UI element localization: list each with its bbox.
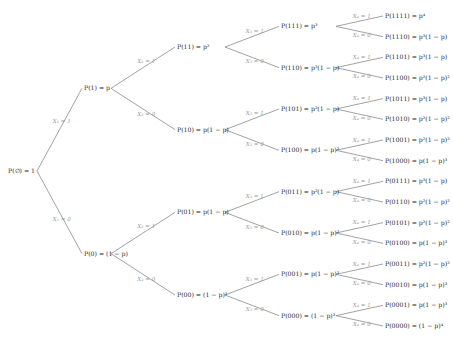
edge-label-x1-1: X₁ = 1 [53,119,71,125]
probability-tree-edges [0,0,453,341]
tree-node-level4: P(1110) = p³(1 − p) [385,34,447,40]
tree-node-level4: P(1011) = p³(1 − p) [385,96,447,102]
tree-node-level4: P(1101) = p³(1 − p) [385,54,447,60]
edge-label-x4-1: X₄ = 1 [353,262,371,268]
edge-label-x3-0: X₃ = 0 [246,308,264,314]
edge-label-x4-1: X₄ = 1 [353,14,371,20]
tree-node-level1: P(1) = p [84,85,110,91]
tree-node-level4: P(0001) = p(1 − p)³ [385,302,447,308]
tree-node-level3: P(010) = p(1 − p)² [281,230,339,236]
tree-node-level4: P(0111) = p³(1 − p) [385,178,447,184]
edge-label-x4-0: X₄ = 0 [353,157,371,163]
tree-edge [111,47,175,88]
edge-label-x4-1: X₄ = 1 [353,303,371,309]
edge-label-x4-0: X₄ = 0 [353,75,371,81]
tree-node-level2: P(00) = (1 − p)² [177,292,227,298]
root-node: P(∅) = 1 [8,168,35,174]
edge-label-x2-0: X₂ = 0 [137,112,155,118]
edge-label-x3-0: X₃ = 0 [246,225,264,231]
edge-label-x3-1: X₃ = 1 [246,112,264,118]
edge-label-x4-0: X₄ = 0 [353,281,371,287]
edge-label-x2-0: X₂ = 0 [137,278,155,284]
edge-label-x4-0: X₄ = 0 [353,240,371,246]
edge-label-x4-0: X₄ = 0 [353,33,371,39]
tree-node-level4: P(1010) = p²(1 − p)² [385,116,450,122]
tree-node-level4: P(1001) = p²(1 − p)² [385,137,450,143]
edge-label-x4-0: X₄ = 0 [353,323,371,329]
edge-label-x3-0: X₃ = 0 [246,142,264,148]
edge-label-x4-1: X₄ = 1 [353,179,371,185]
tree-node-level4: P(0100) = p(1 − p)³ [385,240,447,246]
tree-node-level2: P(11) = p² [177,44,209,50]
tree-node-level4: P(0101) = p²(1 − p)² [385,220,450,226]
tree-node-level4: P(0110) = p²(1 − p)² [385,199,450,205]
edge-label-x4-1: X₄ = 1 [353,221,371,227]
edge-label-x2-1: X₂ = 1 [137,59,155,65]
edge-label-x2-1: X₂ = 1 [137,224,155,230]
tree-node-level4: P(0000) = (1 − p)⁴ [385,323,443,329]
tree-node-level3: P(001) = p(1 − p)² [281,271,339,277]
tree-edge [111,88,175,129]
tree-node-level3: P(011) = p²(1 − p) [281,189,339,195]
tree-edge [111,212,175,253]
tree-edge [37,171,82,254]
edge-label-x3-1: X₃ = 1 [246,277,264,283]
edge-label-x4-1: X₄ = 1 [353,55,371,61]
edge-label-x3-1: X₃ = 1 [246,29,264,35]
tree-node-level4: P(1000) = p(1 − p)³ [385,158,447,164]
tree-node-level1: P(0) = (1 − p) [84,251,128,257]
tree-node-level3: P(110) = p²(1 − p) [281,65,339,71]
edge-label-x4-1: X₄ = 1 [353,97,371,103]
edge-label-x3-1: X₃ = 1 [246,194,264,200]
tree-node-level2: P(10) = p(1 − p) [177,127,229,133]
edge-label-x3-0: X₃ = 0 [246,60,264,66]
tree-node-level4: P(0011) = p²(1 − p)² [385,261,450,267]
edge-label-x1-0: X₁ = 0 [53,218,71,224]
edge-label-x4-0: X₄ = 0 [353,116,371,122]
tree-node-level3: P(111) = p³ [281,23,317,29]
edge-label-x4-0: X₄ = 0 [353,199,371,205]
tree-node-level3: P(101) = p²(1 − p) [281,106,339,112]
tree-node-level3: P(100) = p(1 − p)² [281,147,339,153]
edge-label-x4-1: X₄ = 1 [353,138,371,144]
tree-node-level3: P(000) = (1 − p)³ [281,313,335,319]
tree-edge [111,254,175,295]
tree-node-level4: P(1111) = p⁴ [385,13,425,19]
tree-node-level2: P(01) = p(1 − p) [177,209,229,215]
tree-edge [37,88,82,171]
tree-node-level4: P(1100) = p²(1 − p)² [385,75,450,81]
tree-node-level4: P(0010) = p(1 − p)³ [385,282,447,288]
